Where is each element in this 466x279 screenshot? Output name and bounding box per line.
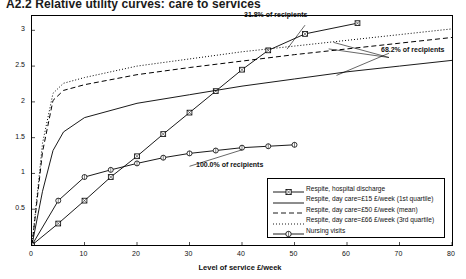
x-tick-label: 80 xyxy=(439,250,463,258)
y-tick-label: 1 xyxy=(3,168,25,176)
legend-label: Nursing visits xyxy=(306,227,345,234)
legend-symbol xyxy=(272,183,306,193)
x-tick-label: 60 xyxy=(334,250,358,258)
legend-item: Respite, day care=£66 £/week (3rd quarti… xyxy=(272,215,440,226)
x-tick-label: 10 xyxy=(72,250,96,258)
y-tick-label: 1.5 xyxy=(3,133,25,141)
legend-label: Respite, hospital discharge xyxy=(306,185,385,192)
x-tick-label: 70 xyxy=(387,250,411,258)
annotation-100-0: 100.0% of recipients xyxy=(196,161,263,168)
legend-symbol xyxy=(272,215,306,225)
x-tick-label: 20 xyxy=(124,250,148,258)
legend-item: Respite, day care=£15 £/week (1st quarti… xyxy=(272,194,440,205)
legend-symbol xyxy=(272,225,306,235)
y-tick-label: 3 xyxy=(3,25,25,33)
legend-symbol xyxy=(272,194,306,204)
y-tick-label: 0.5 xyxy=(3,204,25,212)
x-tick-label: 0 xyxy=(19,250,43,258)
x-axis-title: Level of service £/week xyxy=(160,263,320,272)
x-tick-label: 50 xyxy=(282,250,306,258)
legend-item: Respite, day care=£50 £/week (mean) xyxy=(272,204,440,215)
chart-figure: A2.2 Relative utility curves: care to se… xyxy=(0,0,466,279)
x-tick-label: 40 xyxy=(229,250,253,258)
x-tick-label: 30 xyxy=(177,250,201,258)
legend-item: Respite, hospital discharge xyxy=(272,183,440,194)
legend-label: Respite, day care=£50 £/week (mean) xyxy=(306,206,418,213)
y-tick-label: 2 xyxy=(3,97,25,105)
legend-item: Nursing visits xyxy=(272,225,440,236)
annotation-68-2: 68.2% of recipients xyxy=(381,46,444,53)
series-5 xyxy=(32,142,297,245)
chart-title: A2.2 Relative utility curves: care to se… xyxy=(6,0,261,11)
legend-label: Respite, day care=£15 £/week (1st quarti… xyxy=(306,195,433,202)
annotation-31-8: 31.8% of recipients xyxy=(244,11,307,18)
chart-legend: Respite, hospital dischargeRespite, day … xyxy=(267,178,445,238)
y-tick-label: 2.5 xyxy=(3,61,25,69)
legend-label: Respite, day care=£66 £/week (3rd quarti… xyxy=(306,216,434,223)
legend-symbol xyxy=(272,204,306,214)
